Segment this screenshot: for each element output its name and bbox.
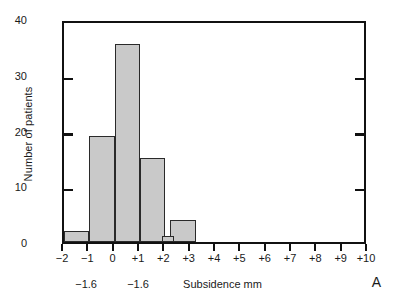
x-axis-tick <box>365 244 367 251</box>
y-axis-tick-label: 10 <box>0 181 27 193</box>
x-axis-tick <box>188 244 190 251</box>
x-axis-title-text: Subsidence mm <box>183 278 262 290</box>
x-axis-tick <box>162 244 164 251</box>
x-axis-tick <box>112 244 114 251</box>
x-axis-tick <box>238 244 240 251</box>
x-axis-tick-label: +10 <box>346 252 386 264</box>
x-axis-tick <box>86 244 88 251</box>
x-axis: −2−10+1+2+3+4+5+6+7+8+9+10 <box>62 244 366 270</box>
bar <box>89 136 114 242</box>
bar <box>162 236 175 242</box>
bar <box>140 158 165 242</box>
x-axis-tick <box>340 244 342 251</box>
bar-series <box>64 23 364 242</box>
bar <box>170 220 195 242</box>
x-axis-tick <box>213 244 215 251</box>
plot-area <box>62 21 366 244</box>
bar <box>64 231 89 242</box>
x-axis-tick <box>289 244 291 251</box>
y-axis-tick <box>355 133 364 135</box>
x-axis-tick <box>314 244 316 251</box>
histogram-figure: Number of patients 010203040 −2−10+1+2+3… <box>0 0 395 305</box>
x-axis-tick <box>61 244 63 251</box>
y-axis-tick <box>355 78 364 80</box>
y-axis-tick-label: 40 <box>0 14 27 26</box>
y-axis-tick <box>64 189 73 191</box>
y-axis-tick-label: 0 <box>0 237 27 249</box>
y-axis-tick <box>355 189 364 191</box>
x-axis-title: Subsidence mm <box>0 278 395 290</box>
x-axis-tick <box>264 244 266 251</box>
y-axis-tick <box>64 133 73 135</box>
y-axis-tick-label: 20 <box>0 126 27 138</box>
bar <box>115 44 140 242</box>
panel-label: A <box>372 274 381 290</box>
y-axis-tick <box>64 78 73 80</box>
x-axis-tick <box>137 244 139 251</box>
y-axis-tick-label: 30 <box>0 70 27 82</box>
